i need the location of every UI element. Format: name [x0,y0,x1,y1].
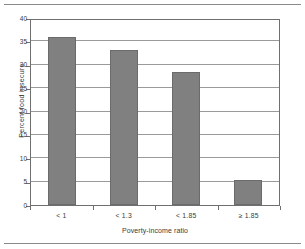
y-tick-label: 5 [0,179,27,186]
bar[interactable] [172,72,201,205]
x-tick [30,206,31,210]
x-tick [155,206,156,210]
bar-slot [93,20,155,205]
bar-slot [155,20,217,205]
chart: 0510152025303540 < 1< 1.3< 1.85≥ 1.85 Po… [0,0,305,249]
bar[interactable] [110,50,139,205]
x-axis-tick-labels: < 1< 1.3< 1.85≥ 1.85 [30,212,280,219]
x-tick-label: < 1.85 [155,212,218,219]
figure: 0510152025303540 < 1< 1.3< 1.85≥ 1.85 Po… [0,0,305,249]
x-tick-label: < 1 [30,212,93,219]
x-tick-label: ≥ 1.85 [218,212,281,219]
plot-area [30,19,280,206]
y-axis-title: Percent food insecure [18,26,25,176]
y-tick-label: 0 [0,203,27,210]
bar-slot [31,20,93,205]
bar-series [31,20,279,205]
bar[interactable] [234,180,263,205]
x-tick-label: < 1.3 [93,212,156,219]
x-tick [93,206,94,210]
x-tick [280,206,281,210]
x-axis-title: Poverty-income ratio [30,227,280,234]
y-tick-label: 40 [0,16,27,23]
bar[interactable] [48,37,77,205]
x-tick [218,206,219,210]
bar-slot [217,20,279,205]
